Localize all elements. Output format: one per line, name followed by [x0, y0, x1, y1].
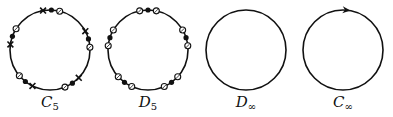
- label-d5: D5: [118, 93, 178, 112]
- filled-dot-icon: [145, 7, 150, 12]
- filled-dot-icon: [107, 35, 112, 40]
- label-c5: C5: [20, 93, 80, 112]
- label-c-infinity: C∞: [313, 93, 373, 112]
- filled-dot-icon: [70, 81, 75, 86]
- filled-dot-icon: [169, 80, 174, 85]
- filled-dot-icon: [49, 7, 54, 12]
- label-d-infinity: D∞: [216, 93, 276, 112]
- filled-dot-icon: [122, 80, 127, 85]
- filled-dot-icon: [10, 34, 15, 39]
- filled-dot-icon: [183, 35, 188, 40]
- filled-dot-icon: [86, 36, 91, 41]
- circle-cinf: [303, 10, 383, 90]
- filled-dot-icon: [23, 79, 28, 84]
- circle-dinf: [206, 10, 286, 90]
